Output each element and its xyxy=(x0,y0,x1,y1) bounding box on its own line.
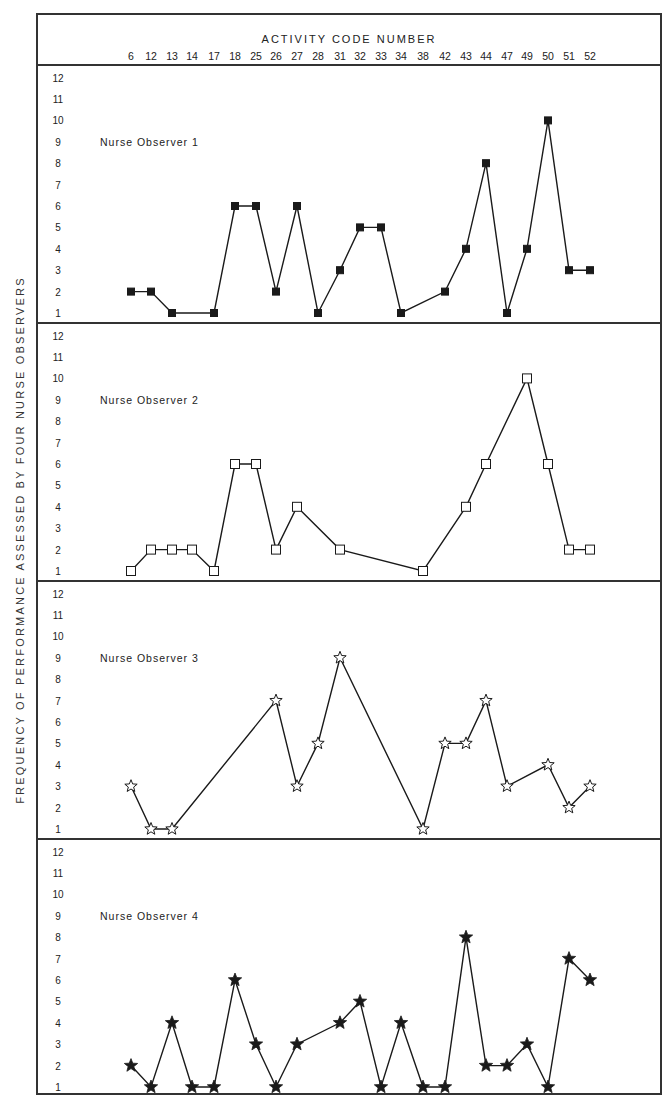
x-tick-label: 26 xyxy=(270,50,282,62)
data-point-marker xyxy=(523,374,532,383)
series-line xyxy=(131,937,590,1087)
data-point-marker xyxy=(587,267,594,274)
data-point-marker xyxy=(542,758,554,770)
data-point-marker xyxy=(272,545,281,554)
y-tick-label: 2 xyxy=(55,1061,61,1072)
y-tick-label: 12 xyxy=(52,73,64,84)
series-line xyxy=(131,658,590,829)
data-point-marker xyxy=(480,694,492,706)
data-point-marker xyxy=(315,310,322,317)
y-tick-label: 3 xyxy=(55,265,61,276)
x-tick-label: 18 xyxy=(229,50,241,62)
y-tick-label: 2 xyxy=(55,803,61,814)
y-tick-label: 12 xyxy=(52,589,64,600)
y-tick-label: 1 xyxy=(55,308,61,319)
x-tick-label: 17 xyxy=(208,50,220,62)
data-point-marker xyxy=(249,1037,262,1050)
y-tick-label: 11 xyxy=(53,352,64,363)
data-point-marker xyxy=(148,288,155,295)
y-tick-label: 1 xyxy=(55,1082,61,1093)
data-point-marker xyxy=(334,651,346,663)
y-tick-label: 5 xyxy=(55,996,61,1007)
data-point-marker xyxy=(378,224,385,231)
data-point-marker xyxy=(270,694,282,706)
data-point-marker xyxy=(398,310,405,317)
y-tick-label: 4 xyxy=(55,244,61,255)
y-tick-label: 8 xyxy=(55,416,61,427)
y-tick-label: 5 xyxy=(55,738,61,749)
y-tick-label: 8 xyxy=(55,932,61,943)
data-point-marker xyxy=(290,1037,303,1050)
data-point-marker xyxy=(232,203,239,210)
y-tick-label: 11 xyxy=(53,610,64,621)
y-tick-label: 7 xyxy=(55,180,61,191)
data-point-marker xyxy=(228,973,241,986)
data-point-marker xyxy=(482,460,491,469)
x-tick-label: 38 xyxy=(417,50,429,62)
x-tick-label: 44 xyxy=(480,50,492,62)
y-tick-label: 4 xyxy=(55,502,61,513)
x-tick-label: 43 xyxy=(460,50,472,62)
series-line xyxy=(131,378,590,571)
data-point-marker xyxy=(337,267,344,274)
chart-area: 6121314171825262728313233343842434447495… xyxy=(0,0,669,1100)
data-point-marker xyxy=(124,1059,137,1072)
data-point-marker xyxy=(168,545,177,554)
data-point-marker xyxy=(520,1037,533,1050)
x-tick-label: 14 xyxy=(186,50,198,62)
x-tick-label: 47 xyxy=(501,50,513,62)
data-point-marker xyxy=(357,224,364,231)
data-point-marker xyxy=(336,545,345,554)
data-point-marker xyxy=(545,117,552,124)
data-point-marker xyxy=(353,994,366,1007)
x-tick-label: 28 xyxy=(312,50,324,62)
data-point-marker xyxy=(463,245,470,252)
y-tick-label: 12 xyxy=(52,331,64,342)
y-tick-label: 6 xyxy=(55,201,61,212)
data-point-marker xyxy=(125,780,137,792)
y-tick-label: 1 xyxy=(55,824,61,835)
y-tick-label: 9 xyxy=(55,911,61,922)
data-point-marker xyxy=(394,1016,407,1029)
y-tick-label: 6 xyxy=(55,975,61,986)
data-point-marker xyxy=(479,1059,492,1072)
data-point-marker xyxy=(439,737,451,749)
data-point-marker xyxy=(145,823,157,835)
data-point-marker xyxy=(207,1080,220,1093)
x-tick-label: 27 xyxy=(291,50,303,62)
x-tick-label: 6 xyxy=(128,50,134,62)
data-point-marker xyxy=(165,1016,178,1029)
x-tick-label: 51 xyxy=(563,50,575,62)
series-label: Nurse Observer 4 xyxy=(100,910,199,922)
data-point-marker xyxy=(210,567,219,576)
data-point-marker xyxy=(169,310,176,317)
panel-observer-3: 123456789101112Nurse Observer 3 xyxy=(52,589,596,835)
data-point-marker xyxy=(291,780,303,792)
y-tick-label: 9 xyxy=(55,653,61,664)
x-tick-label: 13 xyxy=(166,50,178,62)
data-point-marker xyxy=(438,1080,451,1093)
y-tick-label: 4 xyxy=(55,760,61,771)
x-tick-label: 34 xyxy=(395,50,407,62)
series-label: Nurse Observer 3 xyxy=(100,652,199,664)
data-point-marker xyxy=(566,267,573,274)
y-tick-label: 3 xyxy=(55,1039,61,1050)
data-point-marker xyxy=(294,203,301,210)
data-point-marker xyxy=(211,310,218,317)
data-point-marker xyxy=(524,245,531,252)
y-tick-label: 7 xyxy=(55,696,61,707)
x-tick-label: 25 xyxy=(250,50,262,62)
y-tick-label: 8 xyxy=(55,674,61,685)
data-point-marker xyxy=(565,545,574,554)
y-tick-label: 10 xyxy=(52,373,64,384)
data-point-marker xyxy=(483,160,490,167)
data-point-marker xyxy=(462,502,471,511)
y-tick-label: 10 xyxy=(52,115,64,126)
y-tick-label: 6 xyxy=(55,459,61,470)
data-point-marker xyxy=(501,780,513,792)
y-tick-label: 9 xyxy=(55,137,61,148)
y-tick-label: 12 xyxy=(52,847,64,858)
panel-observer-1: 123456789101112Nurse Observer 1 xyxy=(52,73,593,319)
data-point-marker xyxy=(231,460,240,469)
data-point-marker xyxy=(544,460,553,469)
